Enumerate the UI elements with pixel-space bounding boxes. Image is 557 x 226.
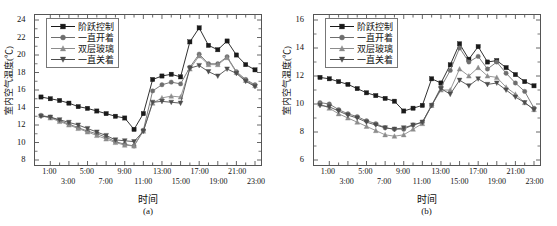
subcaption-b: (b) (313, 206, 541, 216)
y-tick-label: 16 (17, 84, 26, 94)
y-tick-label: 16 (296, 14, 305, 24)
x-tick-label: 3:00 (340, 177, 354, 186)
x-tick-label: 9:00 (396, 167, 410, 176)
x-tick-label: 13:00 (431, 167, 449, 176)
legend-a: 阶跃控制一直开着双层玻璃一直关着 (46, 18, 119, 68)
y-tick-label: 24 (17, 14, 26, 24)
y-tick-label: 18 (17, 67, 26, 77)
subcaption-a: (a) (34, 206, 262, 216)
x-tick-label: 7:00 (377, 177, 391, 186)
x-tick-label: 17:00 (469, 167, 487, 176)
y-tick-label: 20 (17, 49, 26, 59)
legend-b: 阶跃控制一直开着双层玻璃一直关着 (325, 18, 398, 68)
x-tick-label: 21:00 (507, 167, 525, 176)
x-axis-title-b: 时间 (313, 191, 541, 206)
y-tick-label: 12 (17, 119, 26, 129)
legend-marker-square-icon (329, 21, 355, 32)
x-tick-labels-a: 1:003:005:007:009:0011:0013:0015:0017:00… (34, 167, 262, 191)
x-tick-label: 13:00 (153, 167, 171, 176)
chart-panel-b: 室内空气温度(℃) 1:003:005:007:009:0011:0013:00… (279, 0, 557, 226)
figure-container: 室内空气温度(℃) 1:003:005:007:009:0011:0013:00… (0, 0, 557, 226)
legend-marker-triangle-up-icon (329, 43, 355, 54)
x-tick-label: 23:00 (247, 177, 265, 186)
legend-marker-triangle-down-icon (329, 54, 355, 65)
x-tick-label: 17:00 (191, 167, 209, 176)
x-axis-title-a: 时间 (34, 191, 262, 206)
x-tick-label: 3:00 (61, 177, 75, 186)
legend-marker-square-icon (50, 21, 76, 32)
legend-item: 一直关着 (50, 54, 114, 65)
y-tick-label: 10 (296, 98, 305, 108)
x-tick-label: 7:00 (99, 177, 113, 186)
y-tick-label: 10 (17, 137, 26, 147)
legend-marker-triangle-up-icon (50, 43, 76, 54)
legend-label: 一直关着 (357, 53, 393, 66)
x-tick-label: 11:00 (134, 177, 152, 186)
y-axis-title-b: 室内空气温度(℃) (280, 0, 294, 160)
legend-marker-circle-icon (50, 32, 76, 43)
y-tick-label: 12 (296, 70, 305, 80)
y-axis-title-a: 室内空气温度(℃) (1, 0, 15, 160)
x-tick-label: 1:00 (42, 167, 56, 176)
legend-marker-triangle-down-icon (50, 54, 76, 65)
x-tick-label: 9:00 (117, 167, 131, 176)
x-tick-label: 11:00 (413, 177, 431, 186)
x-tick-label: 5:00 (80, 167, 94, 176)
y-tick-label: 14 (17, 102, 26, 112)
x-tick-label: 15:00 (450, 177, 468, 186)
x-tick-label: 19:00 (488, 177, 506, 186)
y-tick-label: 6 (300, 154, 304, 164)
x-tick-label: 15:00 (172, 177, 190, 186)
chart-panel-a: 室内空气温度(℃) 1:003:005:007:009:0011:0013:00… (0, 0, 279, 226)
x-tick-label: 21:00 (228, 167, 246, 176)
legend-item: 一直关着 (329, 54, 393, 65)
y-tick-label: 8 (21, 154, 25, 164)
x-tick-label: 1:00 (321, 167, 335, 176)
x-tick-label: 19:00 (209, 177, 227, 186)
y-tick-label: 8 (300, 126, 304, 136)
x-tick-labels-b: 1:003:005:007:009:0011:0013:0015:0017:00… (313, 167, 541, 191)
series-双层玻璃 (317, 65, 536, 138)
y-tick-label: 14 (296, 42, 305, 52)
legend-marker-circle-icon (329, 32, 355, 43)
x-tick-label: 5:00 (358, 167, 372, 176)
legend-label: 一直关着 (78, 53, 114, 66)
x-tick-label: 23:00 (525, 177, 543, 186)
y-tick-label: 22 (17, 32, 26, 42)
